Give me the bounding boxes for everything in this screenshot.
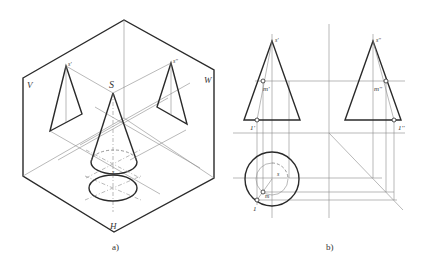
plane-label-w: W: [204, 75, 213, 85]
label-s-top: s: [277, 171, 280, 177]
label-s-side: s'': [376, 37, 382, 43]
caption-b: b): [326, 242, 334, 252]
caption-a: a): [112, 242, 119, 252]
top-projection-ellipse: [85, 175, 141, 201]
cone-3d: [86, 93, 140, 212]
figure-canvas: V W H S s' s'' s a): [0, 0, 426, 272]
label-m-front: m': [263, 85, 270, 93]
label-1-front: 1': [250, 124, 256, 132]
panel-b-orthographic: s' s'' s m' m'' m 1' 1'' 1 b): [233, 24, 405, 252]
point-m-side: [384, 79, 388, 83]
label-1-top: 1: [253, 205, 257, 213]
apex-label-s: S: [109, 79, 114, 90]
label-m-top: m: [265, 193, 270, 199]
label-1-side: 1'': [398, 124, 405, 132]
plane-label-h: H: [109, 221, 117, 231]
side-projection-triangle: [157, 63, 187, 124]
label-m-side: m'': [374, 85, 383, 93]
apex-label-s-side: s'': [173, 58, 179, 64]
apex-label-s-front: s': [68, 61, 72, 67]
point-m-front: [261, 79, 265, 83]
point-1-side: [392, 118, 396, 122]
label-s-front: s': [275, 37, 279, 43]
panel-a-isometric: V W H S s' s'' s a): [23, 20, 214, 252]
plane-label-v: V: [27, 80, 34, 90]
point-1-front: [255, 118, 259, 122]
point-1-top: [255, 198, 259, 202]
